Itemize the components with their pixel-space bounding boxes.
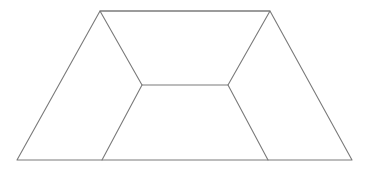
region-right xyxy=(228,11,352,160)
figure-strokes xyxy=(17,11,352,160)
inner-trapezoid-outline xyxy=(100,11,270,85)
region-center xyxy=(102,85,268,160)
trapezoid-figure xyxy=(0,0,367,171)
left-divider-line xyxy=(102,85,142,160)
right-divider-line xyxy=(228,85,268,160)
figure-canvas xyxy=(0,0,367,171)
region-left xyxy=(17,11,142,160)
